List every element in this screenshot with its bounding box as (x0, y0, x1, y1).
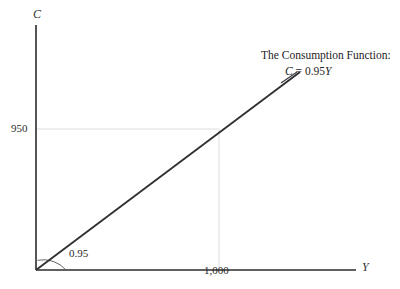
slope-value-label: 0.95 (69, 248, 88, 259)
consumption-function-chart: C Y 950 1,000 0.95 The Consumption Funct… (0, 0, 400, 289)
equation-operator: = 0.95 (293, 65, 325, 77)
x-tick-label-1000: 1,000 (204, 265, 229, 276)
consumption-function-title: The Consumption Function: (261, 50, 391, 62)
axis-label-y: Y (362, 261, 369, 273)
y-tick-label-950: 950 (11, 123, 28, 134)
equation-symbol-y: Y (325, 65, 331, 77)
axis-label-c: C (33, 8, 41, 20)
consumption-function-line (36, 72, 300, 270)
chart-canvas (0, 0, 400, 289)
equation-symbol-c: C (285, 65, 293, 77)
consumption-function-equation: C = 0.95Y (285, 66, 331, 78)
